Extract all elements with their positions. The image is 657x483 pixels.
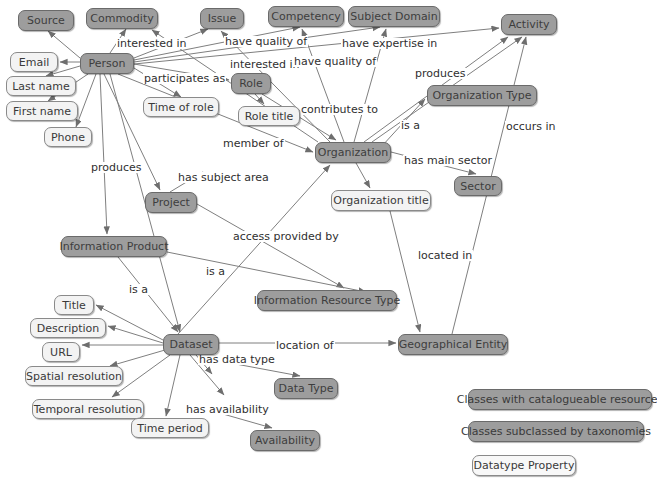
node-info_product[interactable]: Information Product — [61, 236, 167, 257]
node-source[interactable]: Source — [18, 10, 74, 31]
legend-taxonomies: Classes subclassed by taxonomies — [468, 421, 644, 442]
edge-label-has-subject-area: has subject area — [177, 172, 270, 183]
node-role_title[interactable]: Role title — [238, 106, 300, 126]
node-sector[interactable]: Sector — [454, 176, 502, 196]
node-competency[interactable]: Competency — [268, 6, 344, 27]
edge-dataset-spatial-res — [110, 350, 165, 366]
edge-label-is-a-orgtype: is a — [400, 120, 421, 131]
node-activity[interactable]: Activity — [501, 14, 557, 35]
node-spatial_res[interactable]: Spatial resolution — [25, 366, 123, 386]
edge-label-access-provided-by: access provided by — [232, 231, 340, 242]
node-email[interactable]: Email — [10, 52, 58, 72]
edge-info-product-info-res — [167, 252, 366, 292]
concept-map-diagram: SourceCommodityIssueCompetencySubject Do… — [0, 0, 657, 483]
node-dataset[interactable]: Dataset — [163, 334, 219, 355]
edge-dataset-title — [96, 305, 163, 340]
edge-organization-competency — [302, 29, 344, 142]
node-availability[interactable]: Availability — [250, 430, 320, 451]
edge-label-participates-as: participates as — [143, 73, 226, 84]
node-org_title[interactable]: Organization title — [331, 190, 431, 211]
edge-dataset-description — [108, 326, 163, 343]
edge-label-occurs-in: occurs in — [505, 121, 557, 132]
edge-organization-org-title — [356, 163, 370, 188]
edge-label-contributes-to: contributes to — [300, 104, 379, 115]
edge-person-info-product — [100, 74, 107, 234]
edge-label-located-in: located in — [417, 250, 473, 261]
edge-label-location-of: location of — [275, 340, 335, 351]
node-phone[interactable]: Phone — [44, 127, 92, 147]
node-time_of_role[interactable]: Time of role — [143, 97, 219, 117]
node-title[interactable]: Title — [54, 295, 94, 315]
edge-label-has-data-type: has data type — [198, 354, 276, 365]
node-temporal_res[interactable]: Temporal resolution — [32, 399, 144, 419]
node-commodity[interactable]: Commodity — [86, 8, 158, 29]
edge-label-produces-infoproduct: produces — [90, 162, 143, 173]
edge-label-interested-in-commodity: interested in — [116, 38, 187, 49]
edge-label-has-availability: has availability — [185, 404, 270, 415]
edge-label-interested-in-issue: interested in — [229, 59, 300, 70]
node-org_type[interactable]: Organization Type — [427, 85, 537, 106]
node-project[interactable]: Project — [145, 192, 197, 213]
node-last_name[interactable]: Last name — [6, 76, 76, 96]
node-info_res_type[interactable]: Information Resource Type — [257, 290, 397, 311]
node-url[interactable]: URL — [42, 342, 80, 362]
edge-label-have-quality-of-issue: have quality of — [224, 36, 308, 47]
node-data_type[interactable]: Data Type — [274, 378, 338, 399]
edge-label-produces-activity: produces — [414, 68, 467, 79]
legend-catalogueable: Classes with catalogueable resources — [468, 389, 652, 410]
edge-label-is-a-dataset: is a — [128, 284, 149, 295]
node-issue[interactable]: Issue — [200, 8, 244, 29]
node-person[interactable]: Person — [80, 53, 134, 74]
node-subject_domain[interactable]: Subject Domain — [348, 6, 440, 27]
edge-label-member-of: member of — [222, 138, 285, 149]
node-geo_entity[interactable]: Geographical Entity — [398, 334, 508, 355]
edge-label-have-expertise-in: have expertise in — [341, 38, 438, 49]
node-organization[interactable]: Organization — [315, 142, 391, 163]
edge-dataset-time-period — [166, 355, 180, 416]
edge-person-phone — [76, 74, 96, 127]
edge-label-has-main-sector: has main sector — [403, 155, 493, 166]
legend-datatype: Datatype Property — [472, 455, 576, 476]
node-description[interactable]: Description — [30, 318, 106, 338]
edge-label-is-a-infores: is a — [205, 266, 226, 277]
edge-label-have-quality-of-comp: have quality of — [293, 56, 377, 67]
edge-org-title-geo — [390, 211, 420, 332]
node-time_period[interactable]: Time period — [131, 418, 209, 438]
node-role[interactable]: Role — [231, 73, 271, 94]
node-first_name[interactable]: First name — [6, 101, 78, 121]
